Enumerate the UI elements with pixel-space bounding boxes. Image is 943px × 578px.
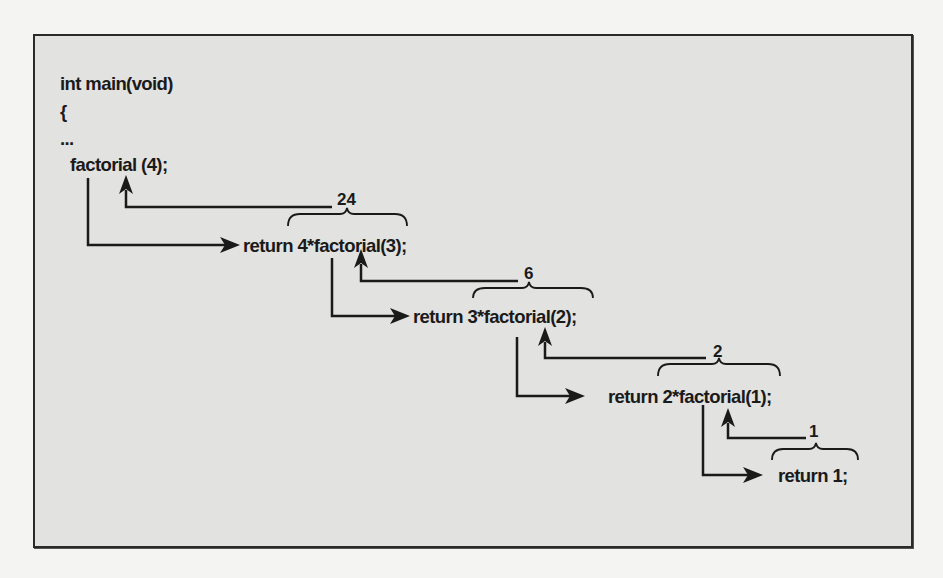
call-arrow-4: [703, 405, 763, 483]
call-arrow-2: [332, 258, 410, 324]
call-code-3: return 2*factorial(1);: [608, 386, 772, 407]
brace-6: [473, 282, 593, 298]
brace-1: [772, 443, 858, 460]
brace-24: [288, 208, 407, 226]
return-arrow-1: [721, 408, 806, 438]
recursion-diagram: int main(void) { ... factorial (4); retu…: [0, 0, 943, 578]
brace-2: [658, 358, 780, 376]
call-arrow-1: [88, 178, 240, 253]
return-value-24: 24: [337, 190, 356, 209]
call-code-1: return 4*factorial(3);: [243, 235, 407, 256]
main-factorial-call: factorial (4);: [70, 154, 167, 175]
return-value-2: 2: [713, 342, 722, 361]
main-signature: int main(void): [60, 73, 173, 94]
return-arrow-2: [538, 327, 706, 358]
call-arrow-3: [517, 337, 585, 404]
return-value-1: 1: [809, 422, 818, 441]
return-arrow-24: [119, 175, 332, 207]
call-code-2: return 3*factorial(2);: [413, 306, 577, 327]
main-ellipsis: ...: [60, 128, 74, 149]
return-value-6: 6: [524, 264, 533, 283]
call-code-4: return 1;: [778, 465, 848, 486]
main-open-brace: {: [60, 101, 67, 122]
